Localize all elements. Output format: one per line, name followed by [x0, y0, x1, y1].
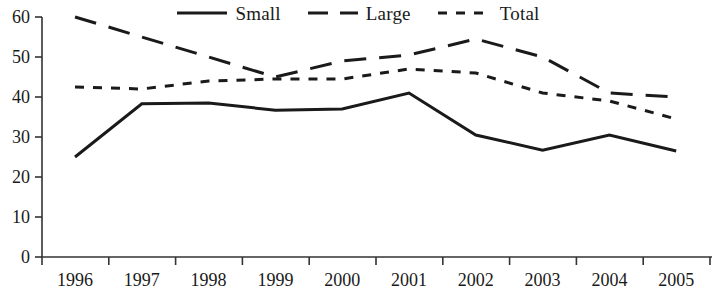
y-tick-label: 20: [12, 167, 30, 187]
y-tick-label: 50: [12, 47, 30, 67]
x-tick-label: 1998: [191, 270, 227, 290]
y-tick-label: 0: [21, 247, 30, 267]
x-tick-label: 1996: [57, 270, 93, 290]
x-tick-label: 2004: [591, 270, 627, 290]
x-tick-label: 2003: [525, 270, 561, 290]
series-line-total: [75, 69, 676, 119]
x-tick-label: 2001: [391, 270, 427, 290]
y-axis: 0102030405060: [12, 7, 42, 267]
series-lines: [75, 17, 676, 157]
y-tick-label: 40: [12, 87, 30, 107]
line-chart: Small Large Total 0102030405060 19961997…: [0, 0, 716, 297]
x-tick-label: 2005: [658, 270, 694, 290]
y-tick-label: 60: [12, 7, 30, 27]
x-tick-label: 1997: [124, 270, 160, 290]
x-tick-label: 2000: [324, 270, 360, 290]
x-axis: 1996199719981999200020012002200320042005: [42, 257, 712, 290]
x-tick-label: 2002: [458, 270, 494, 290]
y-tick-label: 10: [12, 207, 30, 227]
series-line-small: [75, 93, 676, 157]
x-tick-label: 1999: [257, 270, 293, 290]
plot-area: 0102030405060 19961997199819992000200120…: [0, 0, 716, 297]
y-tick-label: 30: [12, 127, 30, 147]
